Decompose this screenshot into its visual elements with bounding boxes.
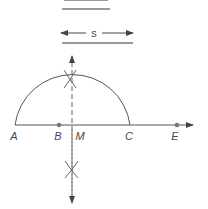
label-e: E [171, 130, 179, 142]
semicircle-arc [15, 75, 130, 125]
s-segment-group: s [61, 27, 133, 43]
upper-intersection-mark [64, 70, 76, 88]
top-segment-group [62, 0, 110, 9]
s-label: s [91, 27, 97, 39]
label-m: M [75, 130, 85, 142]
point-e-dot [175, 123, 180, 128]
label-c: C [125, 130, 133, 142]
lower-intersection-mark [65, 161, 78, 178]
label-b: B [54, 130, 61, 142]
label-a: A [9, 130, 17, 142]
point-b-dot [57, 123, 62, 128]
construction-diagram: s A B M C E [0, 0, 208, 209]
